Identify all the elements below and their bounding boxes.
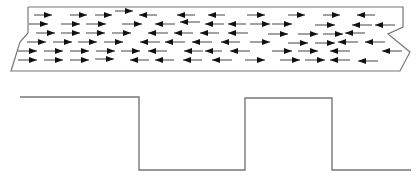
domain-diagram [0,0,416,187]
background [0,0,416,187]
